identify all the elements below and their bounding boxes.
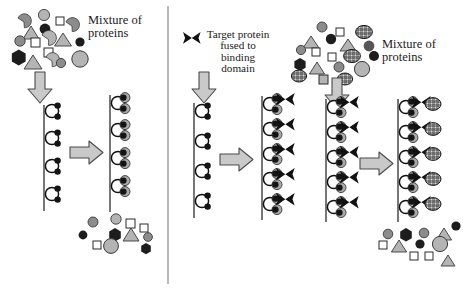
label-left-mixture: Mixture of proteins <box>88 14 142 40</box>
label-target-protein: Target protein fused to binding domain <box>198 29 278 75</box>
captured-target-protein <box>425 173 441 186</box>
captured-target-protein <box>425 198 441 211</box>
captured-target-protein <box>425 148 441 161</box>
label-right-mixture: Mixture of proteins <box>382 38 436 64</box>
captured-target-protein <box>425 123 441 136</box>
captured-target-protein <box>425 98 441 111</box>
